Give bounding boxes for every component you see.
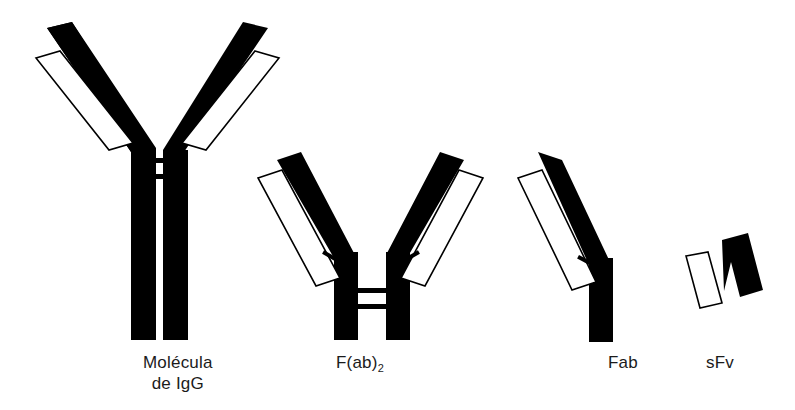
fab2-disulfide-bond-upper <box>355 288 387 293</box>
label-fab2-main: F(ab) <box>336 353 378 372</box>
label-fab: Fab <box>608 352 638 373</box>
igg-disulfide-bond-upper <box>152 158 167 163</box>
structure-fab2 <box>258 152 483 340</box>
fab-stem <box>589 258 613 342</box>
fab2-left-stem <box>334 252 358 340</box>
label-igg-line2: de IgG <box>143 373 213 394</box>
antibody-fragments-figure: Molécula de IgG F(ab)2 Fab sFv <box>0 0 795 410</box>
structure-igg <box>36 22 279 340</box>
label-sfv-main: sFv <box>706 353 734 372</box>
label-igg-line1: Molécula <box>143 353 213 372</box>
sfv-heavy-domain <box>722 233 763 297</box>
structure-sfv <box>686 233 763 308</box>
igg-disulfide-bond-lower <box>152 174 167 179</box>
label-fab2-subscript: 2 <box>378 362 384 374</box>
structure-fab <box>518 152 613 342</box>
label-fab2: F(ab)2 <box>336 352 384 373</box>
fab2-disulfide-bond-lower <box>355 304 387 309</box>
label-igg: Molécula de IgG <box>143 352 213 394</box>
antibody-diagram-canvas <box>0 0 795 410</box>
label-sfv: sFv <box>706 352 734 373</box>
label-fab-main: Fab <box>608 353 638 372</box>
sfv-light-domain <box>686 252 722 308</box>
fab2-right-stem <box>386 252 410 340</box>
